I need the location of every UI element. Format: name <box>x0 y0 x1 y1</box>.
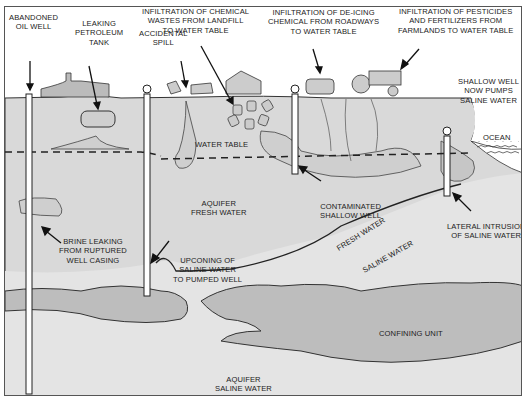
label-line: ABANDONED <box>9 13 58 22</box>
label-line: SHALLOW WELL <box>320 211 381 220</box>
label-line: INFILTRATION OF DE-ICING <box>268 8 379 17</box>
label-line: SHALLOW WELL <box>458 77 519 86</box>
label-line: AQUIFER <box>215 375 272 384</box>
groundwater-contamination-scene <box>5 7 522 396</box>
label-line: SPILL <box>139 38 188 47</box>
label-line: NOW PUMPS <box>458 86 519 95</box>
label-line: SALINE WATER <box>173 265 242 274</box>
label-water-table: WATER TABLE <box>195 140 248 149</box>
petroleum-tank <box>81 111 115 127</box>
label-aquifer-saline: AQUIFER SALINE WATER <box>215 375 272 394</box>
contaminated-shallow-well <box>292 94 298 174</box>
label-confining-unit: CONFINING UNIT <box>379 329 443 338</box>
label-line: BRINE LEAKING <box>59 237 127 246</box>
label-line: SALINE WATER <box>458 96 519 105</box>
label-line: CHEMICAL FROM ROADWAYS <box>268 17 379 26</box>
label-line: AND FERTILIZERS FROM <box>398 16 513 25</box>
label-ocean: OCEAN <box>483 133 511 142</box>
label-line: TO WATER TABLE <box>142 26 249 35</box>
label-shallow-well-saline: SHALLOW WELL NOW PUMPS SALINE WATER <box>458 77 519 105</box>
label-line: CONTAMINATED <box>320 202 381 211</box>
label-line: TO PUMPED WELL <box>173 275 242 284</box>
label-line: INFILTRATION OF PESTICIDES <box>398 7 513 16</box>
label-line: LATERAL INTRUSION <box>447 222 522 231</box>
label-line: TANK <box>75 38 123 47</box>
coastal-shallow-well <box>444 136 450 196</box>
label-aquifer-fresh: AQUIFER FRESH WATER <box>191 199 247 218</box>
label-line: FRESH WATER <box>191 208 247 217</box>
label-line: WELL CASING <box>59 256 127 265</box>
label-contaminated-shallow-well: CONTAMINATED SHALLOW WELL <box>320 202 381 221</box>
label-line: UPCONING OF <box>173 256 242 265</box>
label-pesticides: INFILTRATION OF PESTICIDES AND FERTILIZE… <box>398 7 513 35</box>
diagram-frame: ABANDONED OIL WELL LEAKING PETROLEUM TAN… <box>4 6 522 396</box>
car <box>306 79 334 94</box>
label-line: SALINE WATER <box>215 384 272 393</box>
pumped-well <box>144 94 150 296</box>
label-landfill: INFILTRATION OF CHEMICAL WASTES FROM LAN… <box>142 7 249 35</box>
label-line: OF SALINE WATER <box>447 231 522 240</box>
label-line: FROM RUPTURED <box>59 246 127 255</box>
label-line: INFILTRATION OF CHEMICAL <box>142 7 249 16</box>
label-line: LEAKING <box>75 19 123 28</box>
label-line: OIL WELL <box>9 22 58 31</box>
label-line: AQUIFER <box>191 199 247 208</box>
label-line: PETROLEUM <box>75 28 123 37</box>
label-line: FARMLANDS TO WATER TABLE <box>398 26 513 35</box>
abandoned-oil-well <box>26 94 32 394</box>
brine-plume <box>19 198 62 216</box>
label-abandoned-oil-well: ABANDONED OIL WELL <box>9 13 58 32</box>
label-de-icing: INFILTRATION OF DE-ICING CHEMICAL FROM R… <box>268 8 379 36</box>
label-upconing: UPCONING OF SALINE WATER TO PUMPED WELL <box>173 256 242 284</box>
label-line: WASTES FROM LANDFILL <box>142 16 249 25</box>
label-brine-leaking: BRINE LEAKING FROM RUPTURED WELL CASING <box>59 237 127 265</box>
label-line: TO WATER TABLE <box>268 27 379 36</box>
label-leaking-petroleum-tank: LEAKING PETROLEUM TANK <box>75 19 123 47</box>
label-lateral-intrusion: LATERAL INTRUSION OF SALINE WATER <box>447 222 522 241</box>
